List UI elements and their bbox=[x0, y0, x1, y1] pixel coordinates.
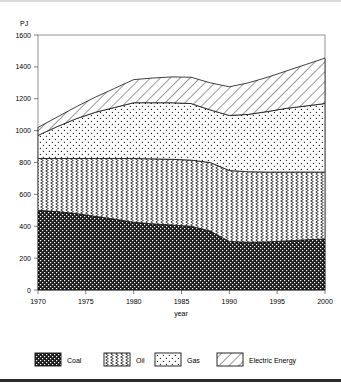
y-tick-label: 800 bbox=[19, 159, 31, 166]
legend-swatch-coal bbox=[35, 353, 61, 366]
y-tick-label: 200 bbox=[19, 255, 31, 262]
y-tick-label: 1400 bbox=[15, 63, 31, 70]
y-tick-label: 1200 bbox=[15, 95, 31, 102]
legend-label-oil: Oil bbox=[136, 357, 145, 364]
x-tick-label: 1995 bbox=[269, 298, 285, 305]
x-tick-label: 1970 bbox=[30, 298, 46, 305]
y-axis-unit-label: PJ bbox=[20, 20, 28, 27]
y-axis: 02004006008001000120014001600 bbox=[15, 32, 38, 294]
legend-swatch-oil bbox=[104, 353, 130, 366]
legend-label-gas: Gas bbox=[187, 357, 200, 364]
x-tick-label: 2000 bbox=[317, 298, 333, 305]
x-tick-label: 1980 bbox=[126, 298, 142, 305]
legend-label-coal: Coal bbox=[67, 357, 82, 364]
legend-swatch-gas bbox=[155, 353, 181, 366]
y-tick-label: 1000 bbox=[15, 127, 31, 134]
top-divider bbox=[0, 0, 341, 2]
x-axis: 1970197519801985199019952000 bbox=[30, 290, 333, 305]
x-tick-label: 1990 bbox=[222, 298, 238, 305]
y-tick-label: 600 bbox=[19, 191, 31, 198]
stacked-area-chart: 02004006008001000120014001600 1970197519… bbox=[0, 0, 341, 386]
x-tick-label: 1975 bbox=[78, 298, 94, 305]
x-axis-title: year bbox=[174, 310, 188, 318]
y-tick-label: 1600 bbox=[15, 32, 31, 39]
y-tick-label: 400 bbox=[19, 223, 31, 230]
y-tick-label: 0 bbox=[27, 287, 31, 294]
x-tick-label: 1985 bbox=[174, 298, 190, 305]
chart-legend: CoalOilGasElectric Energy bbox=[35, 353, 297, 366]
chart-container: 02004006008001000120014001600 1970197519… bbox=[0, 0, 341, 386]
bottom-divider bbox=[0, 379, 341, 382]
legend-swatch-electric-energy bbox=[217, 353, 243, 366]
legend-label-electric-energy: Electric Energy bbox=[249, 357, 297, 365]
